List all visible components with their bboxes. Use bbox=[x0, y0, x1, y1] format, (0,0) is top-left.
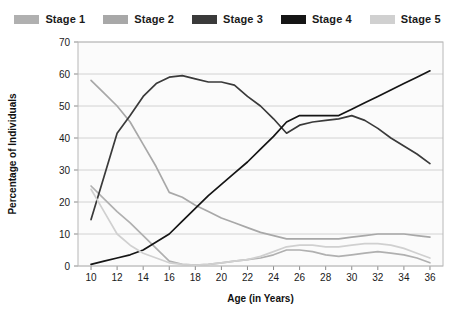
y-tick-label-0: 0 bbox=[64, 261, 70, 272]
y-tick-label-60: 60 bbox=[59, 69, 71, 80]
x-tick-label-26: 26 bbox=[294, 272, 306, 283]
y-tick-label-40: 40 bbox=[59, 133, 71, 144]
x-tick-label-20: 20 bbox=[216, 272, 228, 283]
y-tick-label-50: 50 bbox=[59, 101, 71, 112]
plot-svg: 010203040506070 101214161820222426283032… bbox=[0, 30, 455, 309]
x-tick-label-32: 32 bbox=[372, 272, 384, 283]
y-tick-labels-group: 010203040506070 bbox=[59, 37, 71, 272]
legend-item-stage-1: Stage 1 bbox=[14, 13, 85, 25]
x-tick-label-36: 36 bbox=[424, 272, 436, 283]
legend-label-stage-2: Stage 2 bbox=[134, 13, 174, 25]
legend-label-stage-3: Stage 3 bbox=[223, 13, 263, 25]
y-tick-label-10: 10 bbox=[59, 229, 71, 240]
y-axis-title: Percentage of Individuals bbox=[7, 93, 18, 215]
plot-area-wrapper: 010203040506070 101214161820222426283032… bbox=[0, 30, 455, 309]
x-tick-label-14: 14 bbox=[138, 272, 150, 283]
legend-label-stage-1: Stage 1 bbox=[45, 13, 85, 25]
x-tick-label-22: 22 bbox=[242, 272, 254, 283]
x-tick-label-30: 30 bbox=[346, 272, 358, 283]
x-tick-label-16: 16 bbox=[164, 272, 176, 283]
legend-swatch-stage-3 bbox=[192, 15, 217, 24]
x-tick-label-10: 10 bbox=[85, 272, 97, 283]
legend-swatch-stage-5 bbox=[370, 15, 395, 24]
legend-item-stage-2: Stage 2 bbox=[103, 13, 174, 25]
x-axis-title: Age (in Years) bbox=[227, 293, 294, 304]
x-tick-label-28: 28 bbox=[320, 272, 332, 283]
y-tickmarks-group bbox=[74, 42, 78, 266]
x-tick-label-18: 18 bbox=[190, 272, 202, 283]
legend-swatch-stage-1 bbox=[14, 15, 39, 24]
chart-legend: Stage 1 Stage 2 Stage 3 Stage 4 Stage 5 bbox=[0, 8, 455, 30]
x-tick-label-12: 12 bbox=[112, 272, 124, 283]
legend-label-stage-5: Stage 5 bbox=[401, 13, 441, 25]
x-tickmarks-group bbox=[91, 266, 430, 270]
y-tick-label-20: 20 bbox=[59, 197, 71, 208]
legend-item-stage-5: Stage 5 bbox=[370, 13, 441, 25]
x-tick-label-34: 34 bbox=[398, 272, 410, 283]
x-tick-labels-group: 1012141618202224262830323436 bbox=[85, 272, 435, 283]
legend-swatch-stage-2 bbox=[103, 15, 128, 24]
x-tick-label-24: 24 bbox=[268, 272, 280, 283]
legend-label-stage-4: Stage 4 bbox=[312, 13, 352, 25]
legend-item-stage-3: Stage 3 bbox=[192, 13, 263, 25]
y-tick-label-70: 70 bbox=[59, 37, 71, 48]
y-tick-label-30: 30 bbox=[59, 165, 71, 176]
line-chart: Stage 1 Stage 2 Stage 3 Stage 4 Stage 5 bbox=[0, 0, 455, 309]
legend-swatch-stage-4 bbox=[281, 15, 306, 24]
legend-item-stage-4: Stage 4 bbox=[281, 13, 352, 25]
